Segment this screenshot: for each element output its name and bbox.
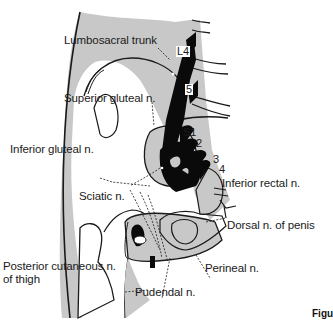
pudendal-canal bbox=[150, 256, 155, 268]
label-superior-gluteal-nerve: Superior gluteal n. bbox=[64, 92, 155, 105]
label-perineal-nerve: Perineal n. bbox=[205, 262, 259, 275]
root-label-s4: 4 bbox=[219, 164, 225, 175]
root-label-s2: 2 bbox=[196, 138, 202, 149]
root-label-l5: 5 bbox=[185, 84, 193, 95]
label-inferior-gluteal-nerve: Inferior gluteal n. bbox=[10, 143, 94, 156]
label-pudendal-nerve: Pudendal n. bbox=[135, 286, 195, 299]
root-label-l4: L4 bbox=[176, 46, 190, 57]
label-posterior-cutaneous-nerve: Posterior cutaneous n. bbox=[3, 260, 116, 273]
figure-caption-fragment: Figu bbox=[312, 308, 333, 319]
label-sciatic-nerve: Sciatic n. bbox=[79, 190, 125, 203]
label-lumbosacral-trunk: Lumbosacral trunk bbox=[64, 34, 157, 47]
root-label-s1: S1 bbox=[183, 127, 196, 138]
label-posterior-cutaneous-nerve-line2: of thigh bbox=[3, 273, 40, 286]
label-inferior-rectal-nerve: Inferior rectal n. bbox=[222, 177, 300, 190]
label-dorsal-nerve-of-penis: Dorsal n. of penis bbox=[227, 219, 315, 232]
